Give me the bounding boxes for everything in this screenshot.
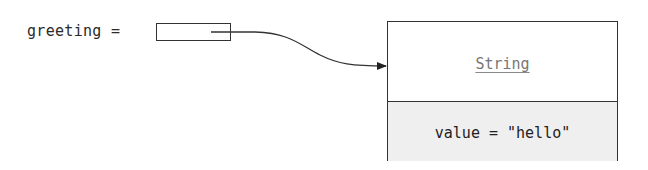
string-object-box: String value = "hello"	[387, 21, 618, 161]
field-value: value = "hello"	[435, 124, 570, 142]
object-fields: value = "hello"	[388, 101, 617, 161]
reference-box	[156, 23, 231, 41]
object-header: String	[388, 22, 617, 102]
variable-label: greeting =	[27, 22, 120, 40]
reference-curve	[211, 32, 386, 66]
class-name: String	[475, 55, 529, 73]
